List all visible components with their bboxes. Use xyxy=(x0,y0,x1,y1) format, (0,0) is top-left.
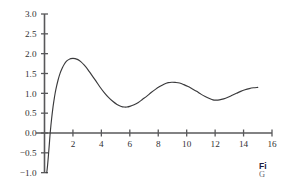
y-tick-label: 2.0 xyxy=(25,49,37,59)
y-tick-label: 2.5 xyxy=(25,29,37,39)
x-tick-label: 16 xyxy=(267,139,277,149)
y-tick-label: 0.5 xyxy=(25,108,37,118)
data-curve xyxy=(47,58,258,172)
figure-caption: Fi G xyxy=(259,162,281,180)
x-axis-tick-labels: 246810121416 xyxy=(71,139,277,149)
x-axis: 246810121416 xyxy=(36,130,277,150)
y-axis: −1.0−0.50.00.51.01.52.02.53.0 xyxy=(20,9,48,178)
y-tick-label: −1.0 xyxy=(20,168,37,178)
y-tick-label: 1.0 xyxy=(25,89,37,99)
x-tick-label: 8 xyxy=(156,139,161,149)
figure-container: −1.0−0.50.00.51.01.52.02.53.0 2468101214… xyxy=(0,0,281,181)
x-tick-label: 14 xyxy=(239,139,249,149)
y-tick-label: 1.5 xyxy=(25,69,37,79)
x-tick-label: 12 xyxy=(211,139,221,149)
x-tick-label: 4 xyxy=(99,139,104,149)
x-tick-label: 2 xyxy=(71,139,76,149)
y-tick-label: 3.0 xyxy=(25,9,37,19)
x-tick-label: 10 xyxy=(182,139,192,149)
x-tick-label: 6 xyxy=(128,139,133,149)
data-series-group xyxy=(47,58,258,172)
caption-subtitle: G xyxy=(259,171,281,180)
y-tick-label: −0.5 xyxy=(20,148,37,158)
y-axis-tick-labels: −1.0−0.50.00.51.01.52.02.53.0 xyxy=(20,9,37,178)
line-chart: −1.0−0.50.00.51.01.52.02.53.0 2468101214… xyxy=(0,0,281,181)
y-tick-label: 0.0 xyxy=(25,128,37,138)
